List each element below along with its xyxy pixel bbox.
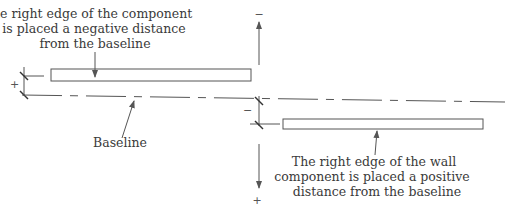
positive-component-rect: [283, 119, 483, 129]
baseline-arrow: [122, 101, 134, 138]
positive-offset-label: The right edge of the wall component is …: [274, 154, 473, 199]
negative-offset-label: The right edge of the component is place…: [0, 6, 196, 51]
negative-component-rect: [51, 69, 251, 81]
baseline-label: Baseline: [93, 135, 147, 150]
plus-sign-bottom: +: [252, 194, 261, 207]
positive-label-arrow: [375, 131, 377, 155]
baseline-line: [22, 95, 505, 102]
minus-sign-mid: −: [243, 104, 252, 117]
plus-sign: +: [10, 78, 19, 91]
wall-offset-diagram: The right edge of the component is place…: [0, 0, 515, 211]
minus-sign-top: −: [254, 8, 263, 21]
